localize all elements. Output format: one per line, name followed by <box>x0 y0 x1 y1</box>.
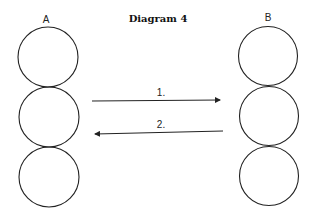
column-a-circle-3 <box>19 147 79 207</box>
column-a: A <box>18 14 79 207</box>
column-a-circle-1 <box>18 27 78 87</box>
arrow-right-icon <box>92 100 220 101</box>
column-b: B <box>239 12 299 206</box>
arrow-1: 1. <box>92 87 220 101</box>
column-a-label: A <box>43 14 50 25</box>
column-a-circle-2 <box>19 87 79 147</box>
diagram-canvas: Diagram 4 A B 1. 2. <box>0 0 313 219</box>
column-b-circle-1 <box>239 27 298 86</box>
arrow-2: 2. <box>95 119 223 134</box>
arrow-1-label: 1. <box>157 87 165 98</box>
column-b-circle-3 <box>240 147 299 206</box>
column-b-circle-2 <box>240 87 299 146</box>
column-b-label: B <box>265 12 272 23</box>
arrow-2-label: 2. <box>157 119 165 130</box>
arrow-left-icon <box>95 131 223 134</box>
diagram-title: Diagram 4 <box>129 13 188 24</box>
